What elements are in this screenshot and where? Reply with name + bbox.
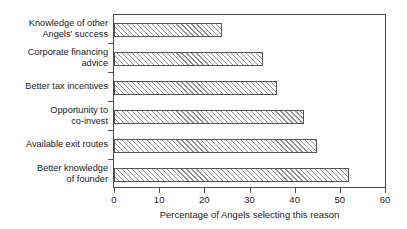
bars-layer <box>114 15 385 187</box>
x-axis-tick <box>385 188 386 193</box>
y-axis-tick <box>108 130 113 131</box>
category-label: Knowledge of other Angels' success <box>0 18 108 39</box>
x-axis-tick-label: 50 <box>325 194 355 205</box>
bar <box>114 110 304 124</box>
x-axis-tick <box>340 188 341 193</box>
x-axis-tick <box>295 188 296 193</box>
x-axis-title: Percentage of Angels selecting this reas… <box>113 209 386 220</box>
x-axis-tick <box>114 188 115 193</box>
bar <box>114 52 263 66</box>
x-axis-tick-label: 20 <box>189 194 219 205</box>
bar <box>114 139 317 153</box>
y-axis-tick <box>108 43 113 44</box>
category-label: Available exit routes <box>0 139 108 150</box>
x-axis-tick-label: 30 <box>235 194 265 205</box>
bar <box>114 168 349 182</box>
x-axis-tick-label: 10 <box>144 194 174 205</box>
y-axis-tick <box>108 159 113 160</box>
bar <box>114 23 222 37</box>
x-axis-tick <box>250 188 251 193</box>
x-axis-tick <box>204 188 205 193</box>
bar-chart: Knowledge of other Angels' successCorpor… <box>0 0 407 229</box>
category-label: Better tax incentives <box>0 81 108 92</box>
x-axis-tick <box>159 188 160 193</box>
category-label: Better knowledge of founder <box>0 163 108 184</box>
y-axis-tick <box>108 72 113 73</box>
category-label: Corporate financing advice <box>0 47 108 68</box>
y-axis-tick <box>108 101 113 102</box>
bar <box>114 81 277 95</box>
chart-title-cropped <box>0 0 407 2</box>
category-label: Opportunity to co-invest <box>0 105 108 126</box>
x-axis-tick-label: 60 <box>370 194 400 205</box>
x-axis-tick-label: 0 <box>99 194 129 205</box>
x-axis-tick-label: 40 <box>280 194 310 205</box>
category-axis-labels: Knowledge of other Angels' successCorpor… <box>0 14 108 188</box>
